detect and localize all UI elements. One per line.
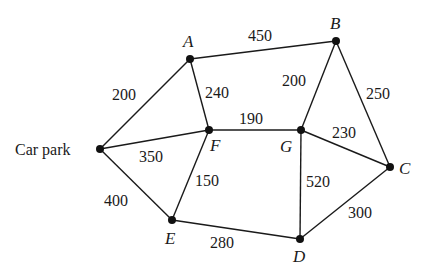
weight-f-e: 150 — [195, 172, 219, 189]
node-carpark — [96, 145, 104, 153]
node-b — [332, 37, 340, 45]
node-label-a: A — [182, 32, 194, 51]
node-a — [186, 55, 194, 63]
node-label-e: E — [164, 229, 176, 248]
node-label-d: D — [292, 247, 306, 266]
node-e — [168, 216, 176, 224]
weight-g-c: 230 — [332, 124, 356, 141]
weight-carpark-e: 400 — [104, 192, 128, 209]
weight-carpark-f: 350 — [139, 148, 163, 165]
graph-diagram: Car park A B C D E F G 200 350 400 450 2… — [0, 0, 425, 279]
edge-b-g — [301, 41, 336, 130]
weight-e-d: 280 — [210, 234, 234, 251]
weight-b-g: 200 — [282, 72, 306, 89]
node-label-g: G — [280, 137, 292, 156]
node-label-carpark: Car park — [15, 141, 71, 159]
weight-g-d: 520 — [306, 173, 330, 190]
weight-a-b: 450 — [248, 27, 272, 44]
weight-c-d: 300 — [348, 204, 372, 221]
weight-labels: 200 350 400 450 240 190 150 200 250 230 … — [104, 27, 390, 251]
edge-e-d — [172, 220, 300, 239]
edge-g-d — [300, 130, 301, 239]
node-label-c: C — [399, 159, 411, 178]
node-label-f: F — [209, 136, 221, 155]
node-c — [386, 163, 394, 171]
weight-b-c: 250 — [366, 85, 390, 102]
node-f — [205, 126, 213, 134]
node-d — [296, 235, 304, 243]
node-g — [297, 126, 305, 134]
weight-f-g: 190 — [239, 110, 263, 127]
weight-a-f: 240 — [205, 84, 229, 101]
weight-carpark-a: 200 — [112, 86, 136, 103]
node-label-b: B — [330, 14, 341, 33]
